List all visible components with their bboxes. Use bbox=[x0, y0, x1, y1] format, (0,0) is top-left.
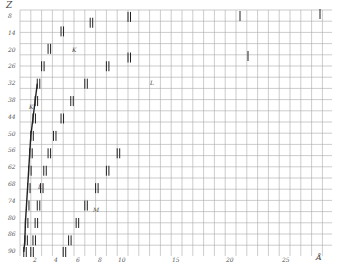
svg-text:74: 74 bbox=[8, 197, 16, 204]
svg-text:44: 44 bbox=[7, 113, 16, 120]
svg-text:56: 56 bbox=[8, 146, 16, 153]
svg-text:8: 8 bbox=[8, 12, 12, 19]
series-label-k2: K bbox=[29, 104, 33, 110]
tick-labels: 8142026323844505662687480869024681015202… bbox=[7, 12, 290, 263]
x-axis-label: Å bbox=[316, 255, 322, 261]
svg-text:26: 26 bbox=[7, 62, 16, 69]
series-label-l2: L bbox=[150, 80, 154, 86]
svg-text:20: 20 bbox=[225, 256, 234, 263]
series-label-l: L bbox=[38, 184, 42, 190]
y-axis-label: Z bbox=[6, 2, 12, 8]
svg-text:25: 25 bbox=[281, 256, 290, 263]
svg-text:90: 90 bbox=[8, 247, 16, 254]
series-label-k: K bbox=[72, 47, 76, 53]
svg-text:10: 10 bbox=[118, 256, 126, 263]
svg-text:4: 4 bbox=[53, 256, 58, 263]
chart-canvas: 8142026323844505662687480869024681015202… bbox=[0, 0, 343, 264]
svg-text:68: 68 bbox=[8, 180, 16, 187]
svg-text:38: 38 bbox=[8, 96, 16, 103]
grid bbox=[20, 10, 332, 256]
svg-text:20: 20 bbox=[7, 46, 16, 53]
svg-text:50: 50 bbox=[8, 130, 16, 137]
svg-text:32: 32 bbox=[8, 79, 16, 86]
svg-text:62: 62 bbox=[8, 163, 16, 170]
svg-text:2: 2 bbox=[32, 256, 37, 263]
series-label-m: M bbox=[93, 207, 99, 213]
svg-text:80: 80 bbox=[8, 214, 16, 221]
svg-text:15: 15 bbox=[172, 256, 180, 263]
svg-text:6: 6 bbox=[76, 256, 80, 263]
svg-text:8: 8 bbox=[98, 256, 102, 263]
svg-text:14: 14 bbox=[8, 29, 16, 36]
svg-text:86: 86 bbox=[8, 230, 16, 237]
